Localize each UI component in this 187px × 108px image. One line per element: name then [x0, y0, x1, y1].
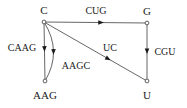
node-AAG[interactable] [43, 79, 47, 83]
node-U[interactable] [145, 79, 149, 83]
arrowhead-c-to-u [105, 55, 112, 62]
node-label-C: C [40, 5, 47, 16]
edge-c-to-u [44, 22, 147, 81]
arrowhead-c-to-g [98, 20, 104, 25]
edge-label-c-to-aag-straight: CAAG [8, 43, 36, 53]
node-C[interactable] [42, 20, 46, 24]
arrowhead-c-to-aag-straight [42, 46, 47, 52]
edge-c-to-aag-curved [44, 22, 54, 81]
edges-layer [44, 22, 147, 81]
edge-label-c-to-u: UC [103, 43, 117, 53]
diagram-canvas: CGAAGU CUGCAAGAAGCUCCGU [0, 0, 187, 108]
arrowhead-g-to-u [145, 48, 150, 54]
node-G[interactable] [145, 21, 149, 25]
edge-c-to-g [44, 22, 147, 23]
node-label-U: U [143, 90, 151, 101]
node-label-AAG: AAG [33, 90, 57, 101]
node-label-G: G [143, 6, 151, 17]
arrowhead-c-to-aag-curved [51, 49, 56, 55]
edge-label-c-to-g: CUG [85, 6, 106, 16]
arrowheads-layer [42, 20, 149, 62]
edge-label-g-to-u: CGU [154, 47, 175, 57]
edge-label-c-to-aag-curved: AAGC [62, 61, 90, 71]
